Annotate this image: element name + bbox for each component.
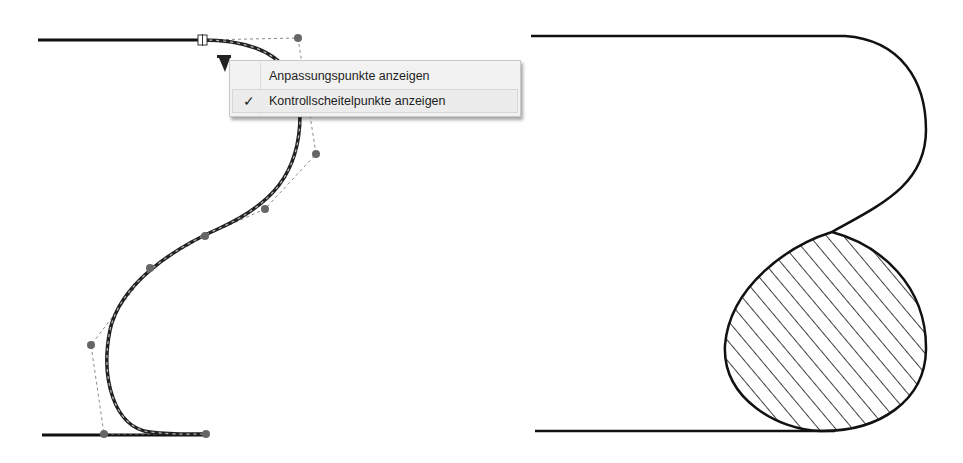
menu-item-label: Kontrollscheitelpunkte anzeigen	[269, 90, 446, 112]
context-menu: Anpassungspunkte anzeigen ✓ Kontrollsche…	[229, 60, 521, 117]
spline-endpoint-handle-icon[interactable]	[198, 34, 207, 46]
hatched-region	[725, 232, 926, 431]
control-vertex-icon[interactable]	[312, 150, 320, 158]
menu-item-show-fit-points[interactable]: Anpassungspunkte anzeigen	[232, 64, 518, 88]
menu-item-label: Anpassungspunkte anzeigen	[269, 64, 430, 88]
checkmark-icon: ✓	[239, 90, 259, 112]
control-vertex-icon[interactable]	[201, 232, 209, 240]
control-vertex-icon[interactable]	[146, 264, 154, 272]
control-vertex-icon[interactable]	[202, 430, 210, 438]
right-sketch	[531, 36, 926, 431]
profile-curve	[832, 36, 926, 232]
control-vertex-icon[interactable]	[294, 34, 302, 42]
control-vertex-icon[interactable]	[100, 430, 108, 438]
control-vertex-icon[interactable]	[87, 341, 95, 349]
menu-item-show-control-vertices[interactable]: ✓ Kontrollscheitelpunkte anzeigen	[232, 89, 518, 113]
control-vertex-icon[interactable]	[261, 205, 269, 213]
